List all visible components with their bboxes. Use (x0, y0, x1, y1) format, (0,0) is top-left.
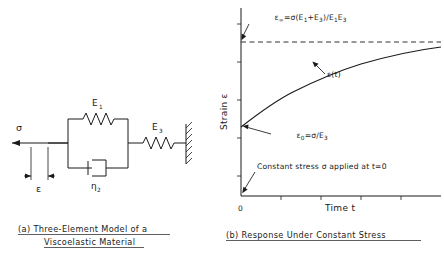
svg-text:ε∞=σ(E1+E3)/E1E3: ε∞=σ(E1+E3)/E1E3 (251, 13, 365, 24)
constant-stress-annotation: Constant stress σ applied at t=0 (242, 162, 387, 193)
y-axis-title: Strain ε (219, 93, 229, 130)
three-element-model-panel: σ ε E 1 (0, 0, 215, 270)
stress-label: σ (16, 122, 22, 133)
spring-E1-label: E 1 (92, 98, 103, 110)
strain-dimension (24, 147, 55, 180)
y-axis-ticks (237, 24, 241, 176)
caption-a-line2: Viscoelastic Material (44, 237, 135, 247)
svg-text:2: 2 (97, 187, 101, 193)
spring-E3-label: E 3 (152, 122, 163, 134)
epsilon-zero-annotation: ε0=σ/E3 (243, 124, 347, 142)
svg-text:ε0=σ/E3: ε0=σ/E3 (273, 131, 346, 142)
spring-E3 (143, 137, 186, 149)
svg-text:E: E (152, 122, 158, 132)
caption-a: (a) Three-Element Model of a Viscoelasti… (18, 224, 170, 248)
curve-label-annotation: ε(t) (312, 62, 340, 79)
caption-b: (b) Response Under Constant Stress (226, 230, 421, 241)
svg-text:3: 3 (159, 128, 163, 134)
svg-text:Constant stress σ applied at t: Constant stress σ applied at t=0 (257, 162, 387, 171)
fixed-wall-icon (186, 122, 192, 164)
x-axis-ticks (281, 196, 401, 200)
svg-text:E: E (92, 98, 98, 108)
creep-curve (241, 47, 441, 127)
creep-response-chart: Strain ε Time t 0 ε∞=σ(E1+E3)/E1E3 ε(t) … (213, 0, 444, 270)
figure-root: σ ε E 1 (0, 0, 444, 270)
caption-a-line1: (a) Three-Element Model of a (18, 224, 147, 234)
svg-text:η: η (91, 181, 97, 191)
epsilon-infinity-annotation: ε∞=σ(E1+E3)/E1E3 (241, 13, 365, 40)
dashpot-eta2-label: η 2 (91, 181, 101, 193)
spring-E1 (68, 113, 128, 125)
dashpot-eta2 (68, 160, 128, 176)
svg-text:ε(t): ε(t) (327, 70, 341, 79)
caption-b-line1: (b) Response Under Constant Stress (226, 230, 386, 240)
x-axis-title: Time t (324, 203, 355, 213)
x-tick-label-0: 0 (238, 204, 243, 213)
svg-text:1: 1 (99, 104, 103, 110)
strain-label: ε (36, 183, 41, 194)
